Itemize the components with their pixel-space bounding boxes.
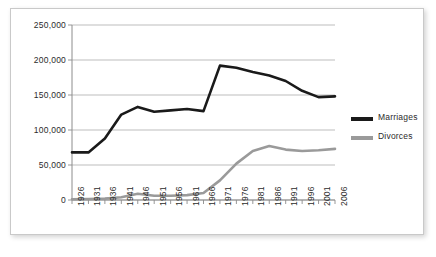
x-tick-label: 1991 [289,186,299,206]
x-tick-label: 1986 [273,186,283,206]
data-series [72,66,335,200]
legend-swatch-divorces [351,136,373,140]
legend-swatch-marriages [351,117,373,121]
y-tick-label: 0 [16,195,66,205]
x-tick-label: 1981 [256,186,266,206]
x-tick-label: 1961 [191,186,201,206]
x-tick-label: 1976 [240,186,250,206]
x-tick-label: 2006 [339,186,349,206]
y-tick-label: 50,000 [16,160,66,170]
x-tick-label: 1971 [223,186,233,206]
series-line-marriages [72,66,335,153]
y-tick-label: 150,000 [16,90,66,100]
legend-label-marriages: Marriages [378,112,418,122]
y-tick-label: 200,000 [16,55,66,65]
x-tick-label: 1941 [125,186,135,206]
x-tick-label: 1951 [158,186,168,206]
x-tick-label: 1931 [92,186,102,206]
x-tick-label: 2001 [322,186,332,206]
y-tick-label: 100,000 [16,125,66,135]
x-tick-label: 1946 [141,186,151,206]
chart-figure: 250,000200,000150,000100,00050,0000 1926… [0,0,436,257]
x-tick-label: 1996 [306,186,316,206]
y-tick-label: 250,000 [16,20,66,30]
x-tick-label: 1956 [174,186,184,206]
x-tick-label: 1926 [76,186,86,206]
legend-label-divorces: Divorces [378,131,413,141]
x-tick-label: 1936 [108,186,118,206]
gridlines [72,25,335,200]
y-axis-ticks [68,25,72,200]
axis-lines [72,25,335,200]
x-tick-label: 1966 [207,186,217,206]
